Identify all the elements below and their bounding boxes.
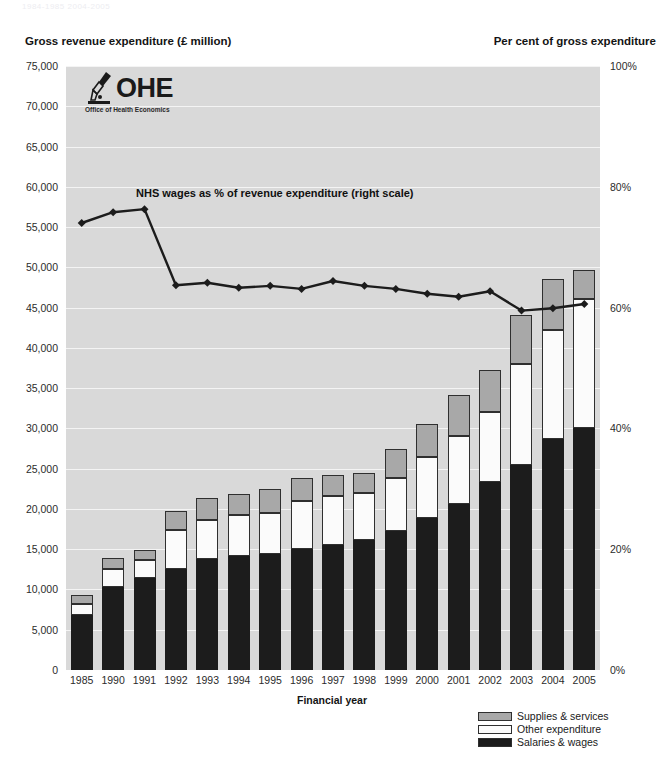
bar-segment[interactable]: [71, 595, 93, 604]
bar-segment[interactable]: [102, 569, 124, 588]
bar-stack[interactable]: [573, 66, 595, 670]
y-axis-left-tick: 20,000: [8, 503, 58, 515]
bar-segment[interactable]: [134, 560, 156, 578]
bar-segment[interactable]: [259, 554, 281, 670]
legend-swatch: [478, 712, 512, 721]
x-axis-tick: 1990: [97, 674, 128, 686]
bar-segment[interactable]: [448, 504, 470, 670]
bar-stack[interactable]: [291, 66, 313, 670]
bar-segment[interactable]: [134, 550, 156, 560]
y-axis-left-tick: 55,000: [8, 221, 58, 233]
bar-segment[interactable]: [510, 364, 532, 465]
bar-segment[interactable]: [510, 315, 532, 364]
legend-label: Other expenditure: [517, 723, 601, 735]
x-axis-tick: 1985: [66, 674, 97, 686]
line-series-annotation: NHS wages as % of revenue expenditure (r…: [136, 187, 414, 199]
legend-swatch: [478, 738, 512, 747]
bar-stack[interactable]: [353, 66, 375, 670]
y-axis-left-tick: 5,000: [8, 624, 58, 636]
x-axis-tick: 1994: [223, 674, 254, 686]
ohe-logo-text: OHE: [116, 73, 173, 104]
bar-stack[interactable]: [479, 66, 501, 670]
y-axis-right-tick: 60%: [610, 302, 658, 314]
bar-segment[interactable]: [573, 428, 595, 670]
y-axis-left-tick: 15,000: [8, 543, 58, 555]
bar-stack[interactable]: [385, 66, 407, 670]
bar-segment[interactable]: [416, 518, 438, 670]
bar-segment[interactable]: [228, 556, 250, 670]
y-axis-left-tick: 40,000: [8, 342, 58, 354]
bar-segment[interactable]: [385, 449, 407, 478]
bar-segment[interactable]: [71, 604, 93, 615]
bar-stack[interactable]: [510, 66, 532, 670]
bar-segment[interactable]: [196, 498, 218, 520]
bar-stack[interactable]: [259, 66, 281, 670]
legend-item[interactable]: Supplies & services: [478, 710, 658, 722]
bar-segment[interactable]: [165, 569, 187, 670]
bar-segment[interactable]: [259, 513, 281, 554]
bar-stack[interactable]: [134, 66, 156, 670]
bar-segment[interactable]: [322, 496, 344, 545]
bar-segment[interactable]: [510, 465, 532, 670]
x-axis-tick: 2000: [412, 674, 443, 686]
bar-stack[interactable]: [71, 66, 93, 670]
bar-segment[interactable]: [102, 558, 124, 568]
x-axis-tick: 1992: [160, 674, 191, 686]
bar-stack[interactable]: [102, 66, 124, 670]
bar-segment[interactable]: [542, 439, 564, 670]
y-axis-left-tick: 70,000: [8, 100, 58, 112]
bar-segment[interactable]: [291, 478, 313, 501]
legend-item[interactable]: Salaries & wages: [478, 736, 658, 748]
bar-segment[interactable]: [416, 424, 438, 458]
bar-stack[interactable]: [322, 66, 344, 670]
bar-stack[interactable]: [165, 66, 187, 670]
plot-area: [66, 66, 600, 670]
bar-stack[interactable]: [448, 66, 470, 670]
bar-segment[interactable]: [102, 587, 124, 670]
x-axis-tick: 2005: [569, 674, 600, 686]
bar-segment[interactable]: [134, 578, 156, 670]
bar-segment[interactable]: [291, 549, 313, 670]
x-axis-tick: 1991: [129, 674, 160, 686]
bar-segment[interactable]: [353, 540, 375, 670]
bar-segment[interactable]: [573, 299, 595, 428]
ohe-microscope-icon: [86, 70, 118, 106]
y-axis-left-tick: 35,000: [8, 382, 58, 394]
bar-segment[interactable]: [196, 520, 218, 559]
bar-segment[interactable]: [542, 279, 564, 330]
y-axis-left-tick: 50,000: [8, 261, 58, 273]
bar-stack[interactable]: [228, 66, 250, 670]
bar-stack[interactable]: [196, 66, 218, 670]
bar-segment[interactable]: [479, 412, 501, 482]
chart-figure: 05,00010,00015,00020,00025,00030,00035,0…: [0, 0, 664, 762]
bar-segment[interactable]: [353, 473, 375, 493]
y-axis-left-tick: 65,000: [8, 141, 58, 153]
bar-segment[interactable]: [479, 370, 501, 413]
legend-item[interactable]: Other expenditure: [478, 723, 658, 735]
bar-segment[interactable]: [165, 530, 187, 569]
bar-segment[interactable]: [322, 475, 344, 496]
bar-segment[interactable]: [448, 395, 470, 435]
bar-segment[interactable]: [322, 545, 344, 670]
bar-segment[interactable]: [573, 270, 595, 299]
bar-segment[interactable]: [385, 531, 407, 670]
x-axis-tick: 1999: [380, 674, 411, 686]
bar-segment[interactable]: [71, 615, 93, 670]
bar-segment[interactable]: [165, 511, 187, 530]
y-axis-left-tick: 10,000: [8, 583, 58, 595]
bar-segment[interactable]: [448, 436, 470, 504]
bar-stack[interactable]: [542, 66, 564, 670]
bar-segment[interactable]: [479, 482, 501, 670]
x-axis-tick: 1996: [286, 674, 317, 686]
bar-segment[interactable]: [291, 501, 313, 549]
bar-stack[interactable]: [416, 66, 438, 670]
bar-segment[interactable]: [196, 559, 218, 670]
bar-segment[interactable]: [353, 493, 375, 541]
bar-segment[interactable]: [259, 489, 281, 513]
bar-segment[interactable]: [228, 494, 250, 515]
bar-segment[interactable]: [385, 478, 407, 531]
bar-segment[interactable]: [542, 330, 564, 439]
legend-label: Supplies & services: [517, 710, 609, 722]
bar-segment[interactable]: [416, 457, 438, 517]
bar-segment[interactable]: [228, 515, 250, 555]
